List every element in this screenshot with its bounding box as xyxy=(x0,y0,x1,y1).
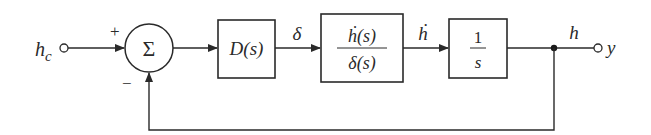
integrator-block: 1 s xyxy=(449,19,507,78)
plant-block: ḣ(s) δ(s) xyxy=(321,14,403,82)
delta-label: δ xyxy=(293,23,303,44)
integrator-denominator: s xyxy=(475,53,482,72)
summing-junction: Σ xyxy=(125,24,173,72)
block-diagram: hc + − Σ D(s) δ ḣ(s) δ(s) ḣ 1 s h y xyxy=(0,0,651,135)
plus-sign: + xyxy=(110,22,120,41)
integrator-numerator: 1 xyxy=(474,28,483,47)
plant-denominator: δ(s) xyxy=(348,53,375,74)
controller-block: D(s) xyxy=(218,20,275,78)
controller-label: D(s) xyxy=(229,38,264,60)
input-terminal: hc xyxy=(35,38,68,64)
minus-sign: − xyxy=(122,74,132,93)
input-port-icon xyxy=(60,44,68,52)
output-label: y xyxy=(605,37,616,58)
sigma-symbol: Σ xyxy=(143,36,156,61)
hdot-label: ḣ xyxy=(418,23,428,44)
plant-numerator: ḣ(s) xyxy=(348,26,376,47)
output-port-icon xyxy=(594,44,602,52)
input-label: hc xyxy=(35,38,52,64)
h-label: h xyxy=(569,22,579,43)
